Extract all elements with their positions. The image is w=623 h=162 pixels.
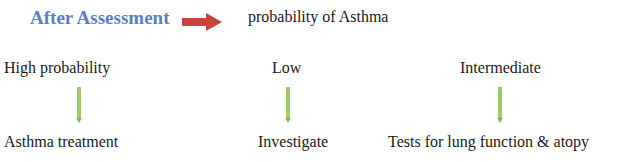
branch-category-low: Low — [272, 59, 301, 77]
branch-outcome-low: Investigate — [258, 133, 328, 151]
down-arrow-icon — [76, 87, 82, 123]
down-arrow-icon — [285, 87, 291, 123]
branch-outcome-intermediate: Tests for lung function & atopy — [388, 133, 589, 151]
diagram-subtitle: probability of Asthma — [248, 8, 388, 26]
branch-category-high: High probability — [4, 59, 110, 77]
branch-category-intermediate: Intermediate — [460, 59, 541, 77]
branch-outcome-high: Asthma treatment — [4, 133, 118, 151]
down-arrow-icon — [497, 87, 503, 123]
right-arrow-icon — [182, 13, 222, 31]
diagram-title: After Assessment — [30, 7, 170, 29]
